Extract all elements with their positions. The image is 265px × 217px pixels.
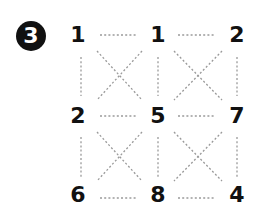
grid-number-r3c3: 4	[225, 184, 249, 206]
grid-number-r3c1: 6	[66, 184, 90, 206]
grid-number-r2c2: 5	[146, 105, 170, 127]
grid-number-r1c3: 2	[225, 24, 249, 46]
grid-number-r1c2: 1	[146, 24, 170, 46]
grid-number-r3c2: 8	[146, 184, 170, 206]
grid-number-r2c3: 7	[225, 105, 249, 127]
diagram: 3 1 1 2 2 5 7 6 8 4	[0, 0, 265, 217]
grid-number-r1c1: 1	[66, 24, 90, 46]
grid-number-r2c1: 2	[66, 105, 90, 127]
